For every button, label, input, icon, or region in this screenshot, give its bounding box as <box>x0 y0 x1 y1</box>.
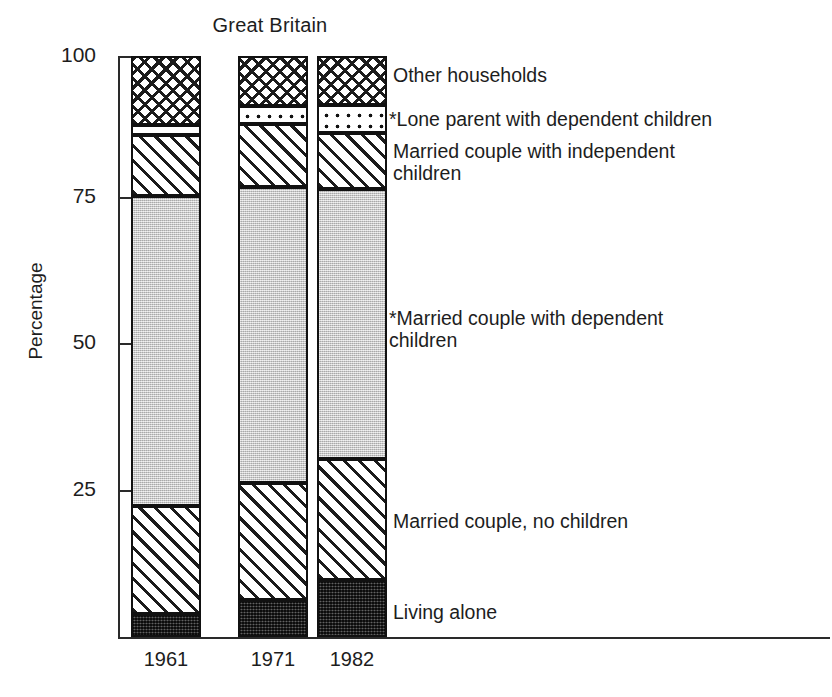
y-tick-label-75: 75 <box>40 185 96 206</box>
segment-1961-married-couple-independent-children[interactable] <box>131 135 201 196</box>
segment-1961-married-couple-no-children[interactable] <box>131 506 201 614</box>
segment-1961-married-couple-dependent-children[interactable] <box>131 196 201 506</box>
y-tick-mark-25 <box>118 490 132 492</box>
chart-canvas: Great Britain Percentage 100 75 50 25 19… <box>0 0 832 697</box>
segment-1982-living-alone[interactable] <box>317 580 387 637</box>
segment-1982-married-couple-dependent-children[interactable] <box>317 189 387 459</box>
y-tick-mark-100 <box>118 56 132 58</box>
segment-1971-married-couple-independent-children[interactable] <box>238 124 308 187</box>
chart-title: Great Britain <box>0 14 540 37</box>
segment-1971-married-couple-dependent-children[interactable] <box>238 187 308 483</box>
y-axis-label: Percentage <box>25 231 47 391</box>
bar-1971[interactable] <box>238 56 308 637</box>
y-tick-mark-50 <box>118 343 132 345</box>
y-axis-line <box>118 56 120 638</box>
legend-label-married-couple-dependent-children: *Married couple with dependent children <box>389 307 663 351</box>
segment-1982-other-households[interactable] <box>317 56 387 105</box>
segment-1982-married-couple-no-children[interactable] <box>317 459 387 580</box>
legend-label-married-couple-independent-children: Married couple with independent children <box>393 140 675 184</box>
x-tick-label-1961: 1961 <box>121 648 211 671</box>
segment-1971-married-couple-no-children[interactable] <box>238 483 308 600</box>
legend-label-lone-parent-dependent-children: *Lone parent with dependent children <box>389 108 712 130</box>
segment-1982-married-couple-independent-children[interactable] <box>317 133 387 189</box>
bar-1961[interactable] <box>131 56 201 637</box>
x-tick-label-1971: 1971 <box>228 648 318 671</box>
x-axis-line <box>118 637 830 639</box>
legend-label-other-households: Other households <box>393 64 547 86</box>
y-tick-label-100: 100 <box>40 44 96 65</box>
y-tick-label-50: 50 <box>40 331 96 352</box>
y-tick-mark-75 <box>118 197 132 199</box>
legend-label-living-alone: Living alone <box>393 601 497 623</box>
legend-label-married-couple-no-children: Married couple, no children <box>393 510 628 532</box>
bar-1982[interactable] <box>317 56 387 637</box>
segment-1982-lone-parent-dependent-children[interactable] <box>317 105 387 133</box>
segment-1961-lone-parent-dependent-children[interactable] <box>131 125 201 135</box>
segment-1971-lone-parent-dependent-children[interactable] <box>238 106 308 124</box>
y-tick-label-25: 25 <box>40 478 96 499</box>
segment-1961-other-households[interactable] <box>131 56 201 125</box>
segment-1971-living-alone[interactable] <box>238 600 308 637</box>
x-tick-label-1982: 1982 <box>307 648 397 671</box>
segment-1971-other-households[interactable] <box>238 56 308 106</box>
segment-1961-living-alone[interactable] <box>131 614 201 637</box>
